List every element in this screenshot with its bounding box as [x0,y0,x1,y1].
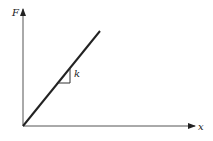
x-axis-label: x [198,121,204,132]
slope-label: k [74,68,80,79]
linear-force-line [23,31,100,126]
y-axis-label: F [11,7,20,18]
force-displacement-diagram: F x k [0,0,213,141]
